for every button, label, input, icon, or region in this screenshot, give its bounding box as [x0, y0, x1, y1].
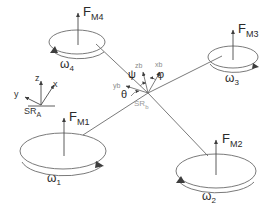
rotor-3-spin-arrowhead	[252, 63, 259, 69]
roll-angle-label: φ	[157, 69, 164, 80]
arm-to-rotor-2	[148, 93, 208, 156]
rotor-2-spin-arrowhead	[176, 176, 185, 183]
quadrotor-diagram: FM4 ω4 FM3 ω3 FM1 ω1 FM2 ω2 z y x SRA zb…	[0, 0, 276, 211]
axis-y-arrow	[25, 97, 41, 105]
yaw-angle-label: ψ	[128, 69, 136, 80]
inertial-frame-axes	[25, 81, 55, 106]
rotor-4-disc	[49, 30, 105, 54]
pitch-angle-label: θ	[121, 89, 127, 100]
rotor-4-omega-label: ω4	[60, 58, 74, 73]
yaw-angle-arc	[140, 83, 146, 86]
axis-y-label: y	[14, 90, 19, 99]
rotor-3-omega-label: ω3	[225, 72, 239, 87]
rotor-1-omega-label: ω1	[47, 172, 61, 187]
rotor-1-disc	[20, 133, 106, 169]
rotor-3-force-label: FM3	[238, 22, 258, 39]
rotor-2-force-label: FM2	[222, 132, 242, 149]
axis-yb-label: yb	[113, 82, 120, 89]
axis-zb-arrow	[143, 72, 148, 93]
rotor-2-spin-arc	[178, 180, 254, 193]
rotor-1-group	[20, 118, 106, 176]
inertial-frame-label: SRA	[24, 107, 41, 118]
airframe-arms	[83, 44, 222, 156]
rotor-1-spin-arrowhead	[95, 161, 104, 168]
axis-zb-label: zb	[135, 62, 142, 69]
rotor-2-omega-label: ω2	[202, 190, 216, 205]
body-frame-label: SRb	[134, 100, 148, 110]
pitch-angle-arc	[131, 91, 139, 96]
rotor-2-group	[176, 140, 256, 193]
axis-x-label: x	[53, 80, 58, 89]
roll-angle-arc	[150, 78, 156, 80]
axis-z-label: z	[35, 74, 40, 83]
axis-xb-label: xb	[155, 61, 162, 68]
rotor-1-force-label: FM1	[69, 110, 89, 127]
rotor-4-force-label: FM4	[83, 5, 103, 22]
